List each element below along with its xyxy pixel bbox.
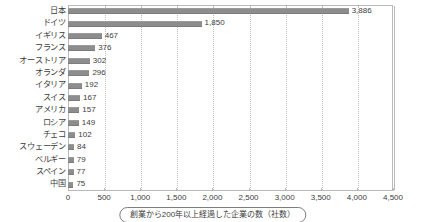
x-tick-mark (249, 188, 250, 191)
bar-row: オランダ296 (0, 67, 425, 79)
category-label: ロシア (0, 117, 66, 129)
bar-group: 192 (68, 79, 98, 91)
x-tick-mark (357, 188, 358, 191)
category-label: オーストリア (0, 55, 66, 67)
bar-group: 167 (68, 92, 96, 104)
bar-value-label: 77 (77, 166, 86, 178)
bar-value-label: 302 (93, 55, 106, 67)
bar-row: オーストリア302 (0, 55, 425, 67)
bar (68, 45, 95, 51)
bar-value-label: 467 (105, 30, 118, 42)
x-tick-label: 0 (66, 193, 70, 202)
bar-value-label: 157 (82, 104, 95, 116)
bar-value-label: 1,850 (205, 17, 225, 29)
category-label: フランス (0, 42, 66, 54)
bar (68, 144, 74, 150)
bar (68, 107, 79, 113)
bar-value-label: 102 (78, 129, 91, 141)
bar-row: スペイン77 (0, 166, 425, 178)
bar-chart: 日本3,886ドイツ1,850イギリス467フランス376オーストリア302オラ… (0, 0, 425, 222)
category-label: ドイツ (0, 17, 66, 29)
bar-value-label: 84 (77, 141, 86, 153)
category-label: チェコ (0, 129, 66, 141)
category-label: ベルギー (0, 154, 66, 166)
x-tick-label: 4,500 (383, 193, 403, 202)
bar-group: 3,886 (68, 5, 372, 17)
x-tick-label: 2,000 (202, 193, 222, 202)
x-tick-label: 1,000 (130, 193, 150, 202)
x-tick-label: 4,000 (347, 193, 367, 202)
bar (68, 95, 80, 101)
bar (68, 120, 79, 126)
x-tick-mark (140, 188, 141, 191)
bar-row: ロシア149 (0, 117, 425, 129)
bar-row: チェコ102 (0, 129, 425, 141)
bar-value-label: 75 (76, 178, 85, 190)
bar (68, 169, 74, 175)
bar-group: 149 (68, 117, 95, 129)
x-tick-label: 2,500 (239, 193, 259, 202)
bar-group: 102 (68, 129, 92, 141)
category-label: スイス (0, 92, 66, 104)
bar (68, 132, 75, 138)
x-tick-label: 3,000 (275, 193, 295, 202)
x-tick-mark (176, 188, 177, 191)
bar-row: イギリス467 (0, 30, 425, 42)
x-tick-mark (104, 188, 105, 191)
bar (68, 182, 73, 188)
bar-group: 157 (68, 104, 96, 116)
bar-row: ドイツ1,850 (0, 17, 425, 29)
bar-group: 84 (68, 141, 86, 153)
bar-value-label: 149 (82, 117, 95, 129)
bar-row: スイス167 (0, 92, 425, 104)
bar-value-label: 376 (98, 42, 111, 54)
bar (68, 8, 349, 14)
bar-value-label: 192 (85, 79, 98, 91)
bar (68, 21, 202, 27)
bar-group: 467 (68, 30, 118, 42)
x-tick-mark (212, 188, 213, 191)
bar-row: ベルギー79 (0, 154, 425, 166)
bar-group: 1,850 (68, 17, 225, 29)
bar (68, 157, 74, 163)
x-tick-mark (285, 188, 286, 191)
x-tick-label: 1,500 (166, 193, 186, 202)
x-axis: 05001,0001,5002,0002,5003,0003,5004,0004… (68, 191, 393, 205)
x-tick-label: 3,500 (311, 193, 331, 202)
bar-group: 302 (68, 55, 106, 67)
bar-value-label: 167 (83, 92, 96, 104)
category-label: アメリカ (0, 104, 66, 116)
bar-group: 376 (68, 42, 112, 54)
category-label: 中国 (0, 178, 66, 190)
category-label: イギリス (0, 30, 66, 42)
bar-row: スウェーデン84 (0, 141, 425, 153)
bar-group: 75 (68, 178, 85, 190)
category-label: スウェーデン (0, 141, 66, 153)
bar-row: フランス376 (0, 42, 425, 54)
chart-caption: 創業から200年以上経過した企業の数（社数） (119, 207, 306, 222)
x-tick-mark (393, 188, 394, 191)
bar-rows: 日本3,886ドイツ1,850イギリス467フランス376オーストリア302オラ… (0, 5, 425, 191)
bar-value-label: 296 (92, 67, 105, 79)
category-label: オランダ (0, 67, 66, 79)
bar-group: 77 (68, 166, 85, 178)
bar-value-label: 3,886 (352, 5, 372, 17)
bar (68, 58, 90, 64)
bar (68, 70, 89, 76)
x-tick-mark (68, 188, 69, 191)
x-tick-mark (321, 188, 322, 191)
bar (68, 33, 102, 39)
category-label: スペイン (0, 166, 66, 178)
bar-group: 296 (68, 67, 106, 79)
bar-row: 日本3,886 (0, 5, 425, 17)
category-label: 日本 (0, 5, 66, 17)
bar-value-label: 79 (77, 154, 86, 166)
bar-row: アメリカ157 (0, 104, 425, 116)
bar-row: イタリア192 (0, 79, 425, 91)
x-tick-label: 500 (97, 193, 110, 202)
bar-group: 79 (68, 154, 86, 166)
category-label: イタリア (0, 79, 66, 91)
bar (68, 83, 82, 89)
